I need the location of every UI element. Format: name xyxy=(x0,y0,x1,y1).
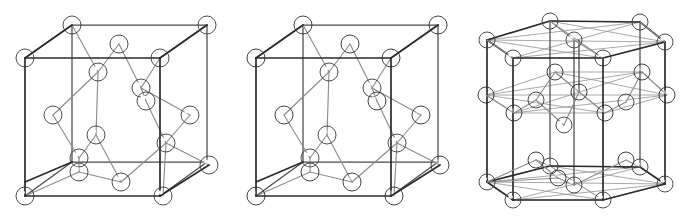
atom-specular-highlight xyxy=(251,191,256,195)
atom-specular-highlight xyxy=(155,53,160,57)
atom-specular-highlight xyxy=(116,177,121,181)
atom-specular-highlight xyxy=(345,39,350,43)
atom-specular-highlight xyxy=(574,87,579,91)
atom-specular-highlight xyxy=(298,20,303,24)
atom-specular-highlight xyxy=(324,67,329,71)
atom-specular-highlight xyxy=(621,155,626,159)
atom-specular-highlight xyxy=(559,120,564,124)
atom-group-wurtzite xyxy=(478,13,675,208)
atom-specular-highlight xyxy=(305,153,310,157)
atom-specular-highlight xyxy=(545,16,550,20)
atom-specular-highlight xyxy=(114,39,119,43)
atom-specular-highlight xyxy=(435,160,440,164)
atom-specular-highlight xyxy=(136,83,141,87)
atom-specular-highlight xyxy=(416,110,421,114)
atom-specular-highlight xyxy=(635,162,640,166)
atom-specular-highlight xyxy=(158,191,163,195)
atom-specular-highlight xyxy=(204,160,209,164)
atom-specular-highlight xyxy=(161,138,166,142)
atom-specular-highlight xyxy=(251,53,256,57)
atom-specular-highlight xyxy=(482,35,487,39)
atom-specular-highlight xyxy=(569,180,574,184)
atom-specular-highlight xyxy=(635,17,640,21)
atom-specular-highlight xyxy=(545,161,550,165)
atom-specular-highlight xyxy=(347,177,352,181)
panel-zincblende xyxy=(231,0,462,219)
atom-specular-highlight xyxy=(508,53,513,57)
atom-specular-highlight xyxy=(91,130,96,134)
atom-specular-highlight xyxy=(305,167,310,171)
atom-specular-highlight xyxy=(372,96,377,100)
atom-specular-highlight xyxy=(482,177,487,181)
atom-specular-highlight xyxy=(598,53,603,57)
atom-specular-highlight xyxy=(392,138,397,142)
panel-diamond-cubic xyxy=(0,0,231,219)
atom-specular-highlight xyxy=(481,90,486,94)
atom-specular-highlight xyxy=(141,96,146,100)
atom-specular-highlight xyxy=(621,97,626,101)
atom-specular-highlight xyxy=(433,20,438,24)
atom-specular-highlight xyxy=(553,173,558,177)
atom-specular-highlight xyxy=(660,179,665,183)
atom-specular-highlight xyxy=(569,35,574,39)
atom-specular-highlight xyxy=(279,110,284,114)
atom-specular-highlight xyxy=(322,130,327,134)
atom-specular-highlight xyxy=(550,67,555,71)
atom-specular-highlight xyxy=(637,67,642,71)
atom-specular-highlight xyxy=(598,195,603,199)
diamond-cubic-svg xyxy=(0,0,231,219)
atom-specular-highlight xyxy=(185,110,190,114)
atom-specular-highlight xyxy=(367,83,372,87)
zincblende-svg xyxy=(231,0,462,219)
atom-specular-highlight xyxy=(662,90,667,94)
hex-guides-top xyxy=(487,21,665,58)
atom-specular-highlight xyxy=(509,108,514,112)
atom-specular-highlight xyxy=(67,20,72,24)
wurtzite-svg xyxy=(462,0,693,219)
atom-specular-highlight xyxy=(48,110,53,114)
atom-specular-highlight xyxy=(600,108,605,112)
atom-specular-highlight xyxy=(531,95,536,99)
atom-specular-highlight xyxy=(74,153,79,157)
atom-specular-highlight xyxy=(386,53,391,57)
panel-wurtzite xyxy=(462,0,693,219)
atom-specular-highlight xyxy=(74,167,79,171)
atom-specular-highlight xyxy=(20,191,25,195)
atom-specular-highlight xyxy=(202,20,207,24)
atom-specular-highlight xyxy=(20,53,25,57)
atom-specular-highlight xyxy=(660,37,665,41)
atom-specular-highlight xyxy=(531,155,536,159)
atom-specular-highlight xyxy=(93,67,98,71)
atom-specular-highlight xyxy=(508,195,513,199)
crystal-structure-figure xyxy=(0,0,693,219)
atom-specular-highlight xyxy=(389,191,394,195)
